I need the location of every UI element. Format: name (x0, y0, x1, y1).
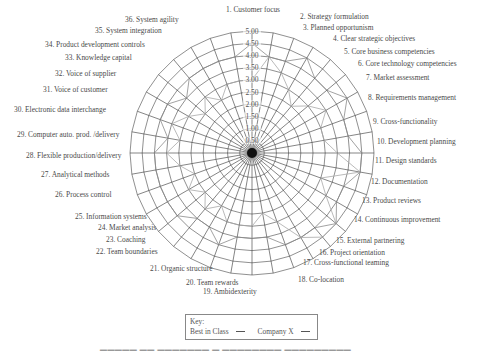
axis-label: 32. Voice of supplier (55, 70, 116, 77)
axis-label: 19. Ambidexterity (203, 288, 257, 295)
axis-label: 20. Team rewards (186, 279, 239, 286)
axis-label: 13. Product reviews (362, 197, 421, 204)
axis-label: 1. Customer focus (226, 6, 280, 13)
axis-label: 17. Cross-functional teaming (303, 259, 389, 266)
axis-label: 10. Development planning (377, 138, 456, 145)
radial-tick-label: 1.50 (245, 112, 258, 121)
axis-label: 23. Coaching (106, 236, 145, 243)
axis-label: 36. System agility (125, 16, 179, 23)
axis-label: 34. Product development controls (45, 41, 145, 48)
radial-tick-label: 0.50 (245, 136, 258, 145)
axis-label: 27. Analytical methods (41, 171, 109, 178)
axis-label: 8. Requirements management (368, 94, 456, 101)
axis-label: 5. Core business competencies (344, 48, 435, 55)
radial-tick-label: 5.00 (245, 27, 258, 36)
legend-best-in-class-swatch (236, 331, 245, 332)
legend-best-in-class-label: Best in Class (190, 327, 229, 336)
axis-label: 24. Market analysis (98, 224, 156, 231)
axis-label: 3. Planned opportunism (303, 24, 373, 31)
series-company-x (167, 57, 361, 238)
axis-label: 9. Cross-functionality (373, 118, 437, 125)
radial-tick-label: 3.50 (245, 63, 258, 72)
axis-label: 29. Computer auto. prod. /delivery (17, 131, 119, 138)
axis-label: 21. Organic structure (150, 265, 212, 272)
radial-tick-label: 2.00 (245, 100, 258, 109)
radial-tick-label: 1.00 (245, 124, 258, 133)
radial-tick-label: 4.50 (245, 39, 258, 48)
legend-title: Key: (190, 317, 313, 326)
axis-label: 22. Team boundaries (96, 248, 158, 255)
axis-label: 35. System integration (95, 27, 162, 34)
axis-label: 2. Strategy formulation (300, 13, 369, 20)
axis-label: 6. Core technology competencies (358, 60, 457, 67)
axis-label: 14. Continuous improvement (354, 216, 440, 223)
axis-label: 16. Project orientation (319, 249, 385, 256)
center-hub (247, 148, 257, 158)
axis-label: 11. Design standards (375, 157, 437, 164)
radial-tick-label: 2.50 (245, 88, 258, 97)
axis-label: 31. Voice of customer (43, 86, 108, 93)
radial-tick-label: 3.00 (245, 75, 258, 84)
legend-company-x-label: Company X (258, 327, 294, 336)
axis-label: 26. Process control (55, 191, 111, 198)
axis-label: 25. Information systems (75, 213, 147, 220)
figure-caption-clipped: ▔▔▔▔▔ ▔▔ ▔▔▔▔▔▔▔ ▔ ▔▔▔▔▔▔▔▔ ▔▔▔▔▔▔▔▔▔ (100, 350, 351, 356)
axis-label: 30. Electronic data interchange (14, 106, 106, 113)
axis-label: 4. Clear strategic objectives (333, 35, 415, 42)
legend: Key: Best in Class Company X (185, 314, 318, 340)
axis-label: 15. External partnering (336, 237, 404, 244)
legend-company-x-swatch (301, 331, 310, 332)
axis-label: 12. Documentation (371, 178, 428, 185)
radial-tick-label: 4.00 (245, 51, 258, 60)
axis-label: 18. Co-location (298, 276, 344, 283)
axis-label: 33. Knowledge capital (65, 54, 132, 61)
axis-label: 7. Market assessment (366, 74, 429, 81)
axis-label: 28. Flexible production/delivery (26, 152, 121, 159)
